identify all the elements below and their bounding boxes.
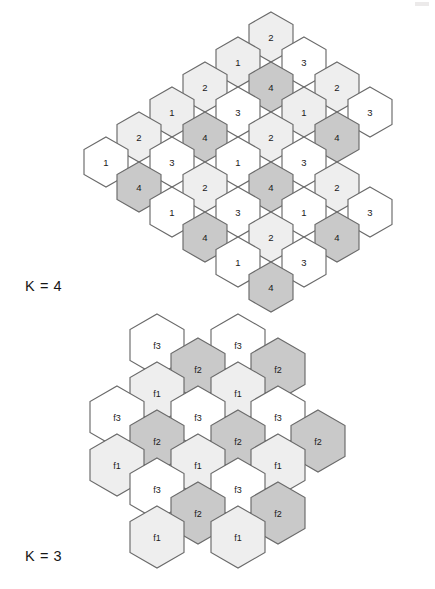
k3-cluster-group: f3f3f2f2f1f1f3f3f3f2f2f2f1f1f1f3f3f2f2f1… bbox=[90, 314, 345, 568]
figure-root: 21324213132424131342421313424134 f3f3f2f… bbox=[0, 0, 435, 589]
k4-cluster-group: 21324213132424131342421313424134 bbox=[84, 12, 392, 312]
caption-k3: K = 3 bbox=[25, 548, 62, 564]
hexagon-diagram-canvas: 21324213132424131342421313424134 f3f3f2f… bbox=[0, 0, 435, 589]
caption-k4: K = 4 bbox=[25, 278, 62, 294]
